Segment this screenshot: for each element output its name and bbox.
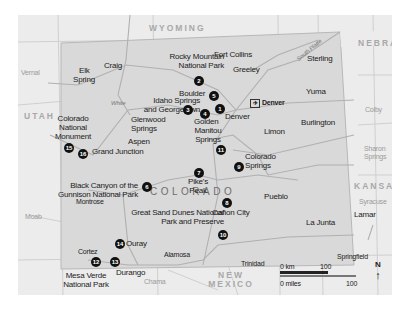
sight-marker-10[interactable]: 10 [218, 230, 228, 240]
airport-icon: ✈ [250, 99, 260, 108]
airport-denver: ✈Denver [250, 99, 285, 108]
town-glenwood-1: Glenwood [131, 116, 165, 124]
sight-marker-4[interactable]: 4 [200, 109, 210, 119]
label-cnm-2: National [48, 124, 98, 132]
label-bc-1: Black Canyon of the [38, 182, 138, 190]
town-denver: Denver [225, 113, 250, 121]
town-montrose: Montrose [76, 198, 104, 206]
map: WYOMING NEBRASKA UTAH KANSAS COLORADO NE… [18, 15, 392, 295]
label-pikes-2: Peak [180, 187, 216, 195]
label-mv-1: Mesa Verde [56, 272, 116, 280]
north-arrow: N ↑ [373, 261, 383, 281]
sight-marker-6[interactable]: 6 [142, 182, 152, 192]
label-cnm-1: Colorado [48, 115, 98, 123]
town-durango: Durango [116, 269, 145, 277]
north-arrow-icon: ↑ [373, 269, 383, 281]
scale-km-start: 0 km [280, 263, 294, 271]
town-cortez: Cortez [78, 248, 97, 256]
sight-marker-15[interactable]: 15 [64, 143, 74, 153]
town-alamosa: Alamosa [164, 251, 190, 259]
town-vernal: Vernal [21, 69, 40, 77]
town-syracuse: Syracuse [359, 198, 387, 206]
label-bc-2: Gunnison National Park [38, 191, 138, 199]
label-manitou-2: Springs [188, 136, 228, 144]
town-greeley: Greeley [233, 66, 260, 74]
town-golden: Golden [194, 118, 219, 126]
sight-marker-1[interactable]: 1 [215, 104, 225, 114]
town-aspen: Aspen [128, 138, 150, 146]
label-manitou-1: Manitou [188, 127, 228, 135]
label-gsd-2: Park and Preserve [118, 218, 224, 226]
town-moab: Moab [25, 213, 42, 221]
town-springfield: Springfield [337, 253, 368, 261]
sight-marker-3[interactable]: 3 [183, 105, 193, 115]
sight-marker-2[interactable]: 2 [194, 76, 204, 86]
sight-marker-16[interactable]: 16 [78, 149, 88, 159]
town-burlington: Burlington [301, 119, 335, 127]
town-grand-junction: Grand Junction [92, 148, 143, 156]
town-craig: Craig [104, 62, 122, 70]
state-label-new-mexico-1: NEW [211, 271, 251, 279]
town-colby: Colby [365, 106, 382, 114]
state-label-wyoming: WYOMING [149, 24, 206, 32]
label-pikes-1: Pike's [180, 178, 216, 186]
state-label-new-mexico-2: MEXICO [206, 280, 256, 288]
label-gsd-1: Great Sand Dunes National [118, 209, 224, 217]
label-rmnp-2: National Park [146, 62, 224, 70]
town-lamar: Lamar [354, 211, 376, 219]
town-yuma: Yuma [306, 88, 326, 96]
sight-marker-11[interactable]: 11 [216, 145, 226, 155]
town-ouray: Ouray [126, 240, 147, 248]
sight-marker-13[interactable]: 13 [110, 257, 120, 267]
north-label: N [375, 260, 381, 269]
town-sharon-springs-1: Sharon [364, 145, 385, 153]
town-la-junta: La Junta [306, 219, 335, 227]
town-glenwood-2: Springs [131, 125, 157, 133]
sight-marker-5[interactable]: 5 [209, 91, 219, 101]
scale-mi-start: 0 miles [280, 280, 301, 288]
town-pueblo: Pueblo [264, 193, 288, 201]
scale-km-end: 100 [320, 263, 331, 271]
sight-marker-14[interactable]: 14 [115, 239, 125, 249]
label-cnm-3: Monument [48, 133, 98, 141]
state-label-nebraska: NEBRASKA [358, 39, 392, 47]
label-cs-2: Springs [245, 162, 271, 170]
scale-miles-bar [280, 275, 356, 277]
town-chama: Chama [144, 278, 166, 286]
sight-marker-12[interactable]: 12 [91, 257, 101, 267]
scale-km-bar [280, 271, 328, 274]
sight-marker-7[interactable]: 7 [194, 168, 204, 178]
label-rmnp-1: Rocky Mountain [146, 53, 224, 61]
town-sterling: Sterling [307, 55, 333, 63]
state-label-kansas: KANSAS [354, 182, 392, 190]
sight-marker-9[interactable]: 9 [234, 162, 244, 172]
town-elk-spring-1: Elk [79, 67, 90, 75]
label-cs-1: Colorado [245, 153, 276, 161]
town-elk-spring-2: Spring [73, 76, 95, 84]
label-idaho-1: Idaho Springs [118, 97, 200, 105]
town-sharon-springs-2: Springs [364, 153, 386, 161]
sight-marker-8[interactable]: 8 [222, 198, 232, 208]
label-mv-2: National Park [56, 281, 116, 289]
town-trinidad: Trinidad [241, 260, 264, 268]
scale-mi-end: 100 [346, 280, 357, 288]
town-limon: Limon [264, 128, 285, 136]
airport-label: Denver [262, 99, 285, 106]
